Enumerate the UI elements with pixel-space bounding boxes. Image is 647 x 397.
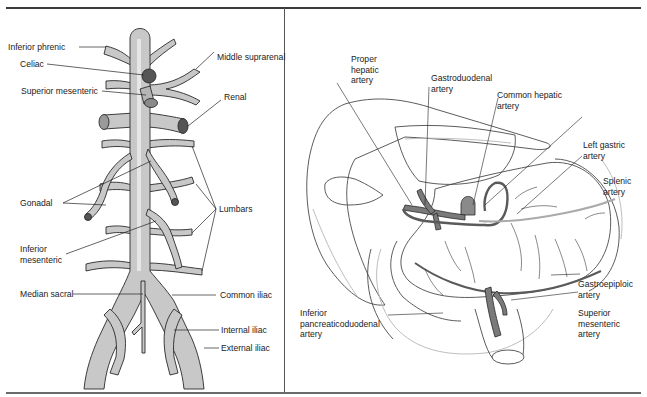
pancreas-outline [377,249,553,354]
label-middle-suprarenal: Middle suprarenal [217,52,285,63]
inferior-mesenteric-branch [146,209,182,269]
celiac-panel: Proper hepatic artery Gastroduodenal art… [285,9,641,392]
label-inferior-mesenteric: Inferior mesenteric [20,244,62,265]
label-superior-mesenteric: Superior mesenteric [21,86,98,97]
label-common-hepatic-artery: Common hepatic artery [497,90,562,111]
label-common-iliac: Common iliac [220,290,272,301]
aorta-cut-end [492,350,524,364]
label-internal-iliac: Internal iliac [221,325,267,336]
gallbladder-outline [325,177,383,205]
label-gastroduodenal-artery: Gastroduodenal artery [431,73,492,94]
superior-mesenteric-origin [145,99,158,108]
label-proper-hepatic-artery: Proper hepatic artery [351,54,379,86]
splenic-artery [479,199,615,222]
label-gastroepiploic-artery: Gastroepiploic artery [578,279,633,300]
aorta-panel: Inferior phrenic Celiac Middle suprarena… [6,9,284,392]
label-superior-mesenteric-artery: Superior mesenteric artery [578,308,620,340]
label-gonadal: Gonadal [20,198,53,209]
label-renal: Renal [224,92,246,103]
inferior-phrenic-branch [104,46,131,65]
stomach-outline [401,162,611,297]
gonadal-right [146,149,178,203]
bottom-rule [6,392,641,394]
label-median-sacral: Median sacral [20,289,74,300]
label-splenic-artery: Splenic artery [603,176,631,197]
celiac-trunk [142,69,156,83]
gastroepiploic-artery [415,263,601,293]
label-lumbars: Lumbars [219,204,252,215]
label-inferior-phrenic: Inferior phrenic [8,42,65,53]
celiac-trunk [461,196,475,215]
label-left-gastric-artery: Left gastric artery [583,140,625,161]
label-celiac: Celiac [20,59,44,70]
label-external-iliac: External iliac [221,343,270,354]
label-inferior-pancreaticoduodenal-artery: Inferior pancreaticoduodenal artery [300,308,380,340]
